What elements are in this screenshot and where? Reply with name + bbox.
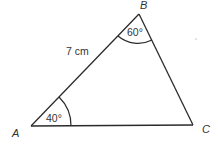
triangle-diagram: A B C 7 cm 40° 60°	[0, 0, 218, 146]
stray-dot	[195, 38, 196, 39]
vertex-a-label: A	[11, 127, 19, 139]
side-ab	[31, 14, 139, 126]
side-ac	[31, 125, 193, 126]
triangle-abc	[31, 14, 193, 126]
vertex-c-label: C	[202, 123, 210, 135]
vertex-b-label: B	[140, 0, 147, 11]
angle-a-label: 40°	[46, 112, 62, 124]
side-bc	[139, 14, 193, 125]
side-ab-length-label: 7 cm	[66, 45, 89, 57]
angle-b-label: 60°	[127, 26, 143, 38]
